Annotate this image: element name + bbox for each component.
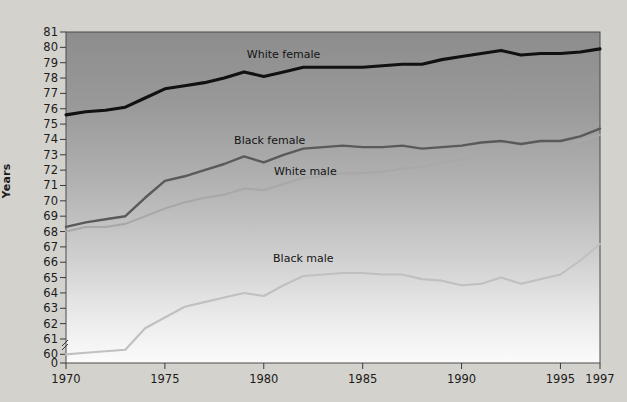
y-axis-tick-label: 69: [43, 209, 58, 223]
series-label-white-male: White male: [274, 165, 337, 178]
y-axis-tick-label: 78: [43, 71, 58, 85]
y-axis-tick-label: 79: [43, 56, 58, 70]
y-axis-tick-label: 76: [43, 102, 58, 116]
y-axis-tick-label: 68: [43, 225, 58, 239]
y-axis-tick-label: 81: [43, 25, 58, 39]
y-axis-tick-label: 63: [43, 301, 58, 315]
series-label-black-female: Black female: [234, 134, 305, 147]
y-axis-tick-label: 70: [43, 194, 58, 208]
y-axis-tick-label: 65: [43, 271, 58, 285]
y-axis-zero-label: 0: [51, 356, 58, 370]
y-axis-tick-label: 77: [43, 86, 58, 100]
y-axis-tick-label: 74: [43, 132, 58, 146]
y-axis-tick-label: 61: [43, 332, 58, 346]
series-label-black-male: Black male: [273, 252, 334, 265]
x-axis-tick-label: 1985: [348, 372, 377, 386]
x-axis-tick-label: 1990: [447, 372, 476, 386]
y-axis-tick-label: 80: [43, 40, 58, 54]
life-expectancy-line-chart: Years 8180797877767574737271706968676665…: [0, 0, 627, 402]
x-axis-tick-label: 1970: [51, 372, 80, 386]
y-axis-tick-marks: [60, 32, 66, 363]
y-axis-tick-label: 64: [43, 286, 58, 300]
y-axis-tick-labels: 8180797877767574737271706968676665646362…: [20, 0, 58, 402]
y-axis-tick-label: 72: [43, 163, 58, 177]
y-axis-tick-label: 62: [43, 317, 58, 331]
x-axis-tick-label: 1975: [150, 372, 179, 386]
x-axis-tick-label: 1995: [546, 372, 575, 386]
y-axis-title: Years: [0, 164, 13, 199]
y-axis-tick-label: 66: [43, 255, 58, 269]
y-axis-tick-label: 71: [43, 178, 58, 192]
y-axis-tick-label: 67: [43, 240, 58, 254]
x-axis-tick-label: 1980: [249, 372, 278, 386]
y-axis-tick-label: 75: [43, 117, 58, 131]
y-axis-tick-label: 73: [43, 148, 58, 162]
x-axis-tick-label: 1997: [585, 372, 614, 386]
x-axis-tick-marks: [66, 363, 600, 369]
series-label-white-female: White female: [247, 48, 320, 61]
